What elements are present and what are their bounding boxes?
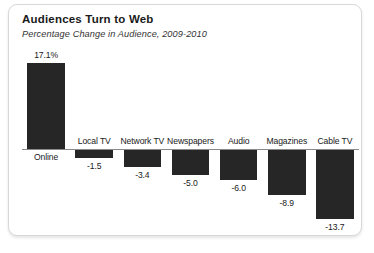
bar-local-tv [75, 150, 113, 158]
value-label: -1.5 [70, 161, 118, 171]
bar-audio [220, 150, 258, 180]
bar-newspapers [172, 150, 210, 175]
value-label: -13.7 [311, 222, 359, 232]
value-label: 17.1% [22, 50, 70, 60]
chart-card: Audiences Turn to Web Percentage Change … [8, 4, 362, 236]
category-label: Newspapers [166, 136, 214, 146]
bar-network-tv [124, 150, 162, 167]
category-label: Magazines [263, 136, 311, 146]
category-label: Network TV [118, 136, 166, 146]
value-label: -8.9 [263, 198, 311, 208]
chart-plot-area: Online17.1%Local TV-1.5Network TV-3.4New… [9, 5, 362, 236]
category-label: Cable TV [311, 136, 359, 146]
bar-online [27, 63, 65, 149]
value-label: -3.4 [118, 170, 166, 180]
category-label: Local TV [70, 136, 118, 146]
category-label: Online [22, 152, 70, 162]
bar-cable-tv [316, 150, 354, 219]
value-label: -6.0 [215, 183, 263, 193]
value-label: -5.0 [166, 178, 214, 188]
category-label: Audio [215, 136, 263, 146]
bar-magazines [268, 150, 306, 195]
